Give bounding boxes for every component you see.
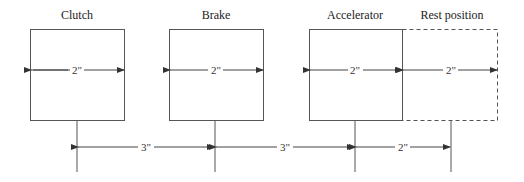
clutch-width: 2" — [72, 64, 82, 76]
brake-accelerator-spacing: 3" — [280, 141, 290, 153]
spacing-dimensions: 3" 3" 2" — [78, 141, 450, 153]
brake-label: Brake — [202, 8, 231, 22]
pedal-layout-diagram: Clutch Brake Accelerator Rest position 2… — [0, 0, 524, 182]
brake-width: 2" — [211, 64, 221, 76]
rest-width: 2" — [446, 64, 456, 76]
clutch-label: Clutch — [61, 8, 93, 22]
accelerator-label: Accelerator — [327, 8, 383, 22]
rest-position-label: Rest position — [420, 8, 483, 22]
accelerator-width: 2" — [350, 64, 360, 76]
clutch-brake-spacing: 3" — [141, 141, 151, 153]
accelerator-rest-spacing: 2" — [398, 141, 408, 153]
